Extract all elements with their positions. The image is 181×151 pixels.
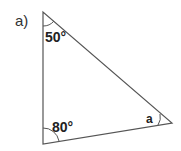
angle-label-bottom-left: 80° [52, 120, 73, 134]
angle-label-top: 50° [45, 30, 66, 44]
angle-arc-right [158, 114, 160, 125]
angle-label-right: a [146, 113, 153, 125]
part-label: a) [15, 13, 28, 28]
angle-arc-top [43, 21, 54, 26]
